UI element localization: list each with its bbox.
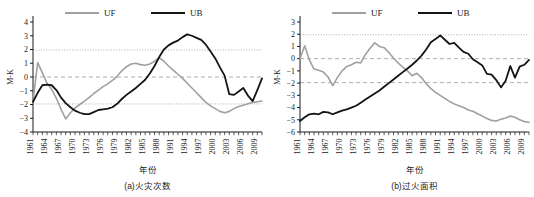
x-tick-label: 1982 — [124, 139, 133, 155]
y-tick-label: −3 — [19, 114, 28, 123]
x-tick-label: 1964 — [40, 139, 49, 155]
y-tick-label: 2 — [24, 45, 28, 54]
legend-label-UB: UB — [457, 8, 470, 18]
x-tick-label: 2000 — [475, 139, 484, 155]
x-tick-label: 2000 — [208, 139, 217, 155]
legend-label-UB: UB — [190, 8, 203, 18]
x-tick-label: 1991 — [433, 139, 442, 155]
y-tick-label: −4 — [19, 128, 28, 137]
x-tick-label: 1973 — [349, 139, 358, 155]
y-tick-label: 0 — [291, 54, 295, 63]
x-tick-label: 2003 — [222, 139, 231, 155]
series-line-UB — [33, 34, 262, 114]
x-tick-label: 2009 — [250, 139, 259, 155]
y-tick-label: −2 — [19, 100, 28, 109]
series-line-UB — [300, 35, 529, 121]
y-tick-label: 3 — [24, 32, 28, 41]
y-tick-label: 2 — [291, 30, 295, 39]
series-group — [300, 35, 529, 122]
y-ticks: −6−5−4−3−2−10123 — [286, 18, 300, 137]
y-tick-label: −1 — [286, 67, 295, 76]
x-tick-label: 1985 — [405, 139, 414, 155]
y-tick-label: 4 — [24, 18, 28, 27]
y-tick-label: 1 — [291, 42, 295, 51]
x-ticks: 1961196419671970197319761979198219851988… — [26, 132, 262, 155]
x-tick-label: 1979 — [110, 139, 119, 155]
x-tick-label: 1988 — [152, 139, 161, 155]
y-tick-label: −4 — [286, 103, 295, 112]
x-tick-label: 1997 — [194, 139, 203, 155]
mann-kendall-figure: −4−3−2−101234196119641967197019731976197… — [0, 0, 534, 197]
y-tick-label: 0 — [24, 73, 28, 82]
x-tick-label: 1967 — [54, 139, 63, 155]
x-tick-label: 1970 — [68, 139, 77, 155]
panel-caption: (b)过火面积 — [391, 181, 437, 191]
x-tick-label: 2009 — [517, 139, 526, 155]
y-tick-label: −2 — [286, 79, 295, 88]
x-tick-label: 1985 — [138, 139, 147, 155]
legend-label-UF: UF — [371, 8, 383, 18]
chart-panel-b: −6−5−4−3−2−10123196119641967197019731976… — [267, 0, 534, 197]
x-tick-label: 1970 — [335, 139, 344, 155]
chart-panel-a: −4−3−2−101234196119641967197019731976197… — [0, 0, 267, 197]
x-tick-label: 1976 — [363, 139, 372, 155]
legend-label-UF: UF — [104, 8, 116, 18]
x-tick-label: 1961 — [293, 139, 302, 155]
x-tick-label: 1964 — [307, 139, 316, 155]
series-group — [33, 34, 262, 119]
y-ticks: −4−3−2−101234 — [19, 18, 33, 137]
x-axis-title: 年份 — [139, 165, 157, 175]
legend: UFUB — [332, 8, 470, 18]
x-tick-label: 1997 — [461, 139, 470, 155]
chart-svg-panel-b: −6−5−4−3−2−10123196119641967197019731976… — [267, 0, 534, 197]
x-tick-label: 1994 — [447, 139, 456, 155]
x-axis-title: 年份 — [406, 165, 424, 175]
y-axis-title: M-K — [6, 69, 15, 85]
panel-caption: (a)火灾次数 — [124, 181, 170, 191]
y-tick-label: −1 — [19, 87, 28, 96]
chart-svg-panel-a: −4−3−2−101234196119641967197019731976197… — [0, 0, 267, 197]
x-tick-label: 1976 — [96, 139, 105, 155]
y-tick-label: 3 — [291, 18, 295, 27]
legend: UFUB — [65, 8, 203, 18]
x-ticks: 1961196419671970197319761979198219851988… — [293, 132, 529, 155]
x-tick-label: 1961 — [26, 139, 35, 155]
x-tick-label: 1967 — [321, 139, 330, 155]
x-tick-label: 2006 — [236, 139, 245, 155]
y-tick-label: 1 — [24, 59, 28, 68]
y-axis-title: M-K — [273, 69, 282, 85]
x-tick-label: 1982 — [391, 139, 400, 155]
x-tick-label: 1994 — [180, 139, 189, 155]
x-tick-label: 1973 — [82, 139, 91, 155]
y-tick-label: −3 — [286, 91, 295, 100]
x-tick-label: 2006 — [503, 139, 512, 155]
x-tick-label: 1991 — [166, 139, 175, 155]
x-tick-label: 1979 — [377, 139, 386, 155]
x-tick-label: 1988 — [419, 139, 428, 155]
y-tick-label: −5 — [286, 116, 295, 125]
x-tick-label: 2003 — [489, 139, 498, 155]
y-tick-label: −6 — [286, 128, 295, 137]
